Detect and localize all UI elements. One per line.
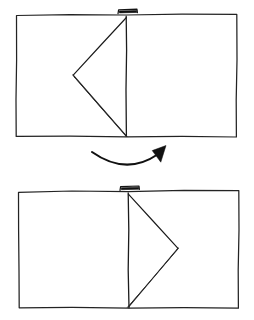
center-fold-line-top <box>126 16 127 136</box>
center-tab-shadow-top <box>119 10 137 13</box>
diagram-canvas: Paper Folding Step Diagram <box>0 0 254 320</box>
fold-diagram: Paper Folding Step Diagram <box>0 0 254 320</box>
flip-arrow-group <box>92 146 166 165</box>
step-after-group <box>19 186 240 308</box>
step-before-group <box>16 9 237 137</box>
flip-direction-arrow-curve <box>92 152 158 165</box>
flip-direction-arrow-head <box>152 146 166 163</box>
center-tab-shadow-bottom <box>121 187 139 190</box>
center-fold-line-bottom <box>128 193 129 308</box>
